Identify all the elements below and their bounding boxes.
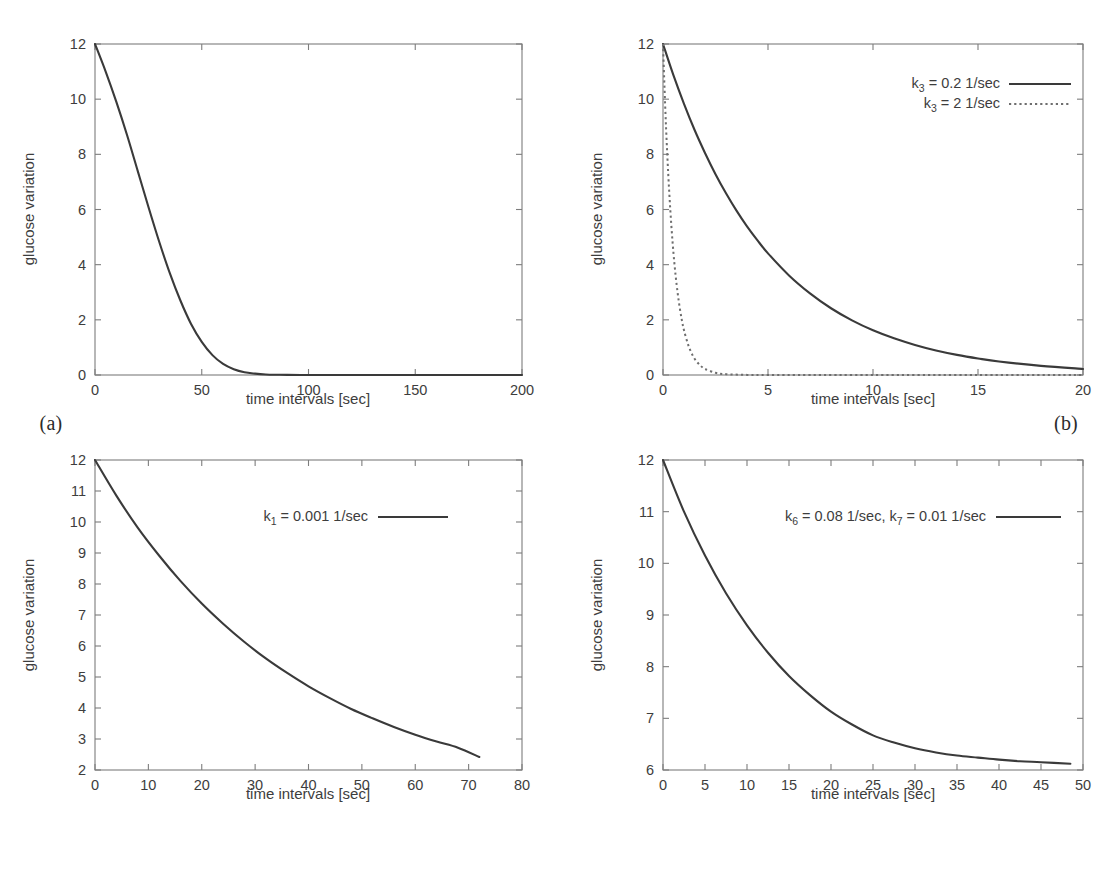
panel-c-xtick-20: 20 <box>194 777 210 793</box>
panel-a-xtick-200: 200 <box>510 382 534 398</box>
panel-c-legend: k1 = 0.001 1/sec <box>263 508 448 527</box>
panel-b-ytick-8: 8 <box>646 146 654 162</box>
panel-d-ytick-6: 6 <box>646 762 654 778</box>
panel-c-xtick-80: 80 <box>514 777 530 793</box>
panel-b-ylabel: glucose variation <box>588 153 605 266</box>
panel-a-ytick-10: 10 <box>70 91 86 107</box>
panel-c-ylabel: glucose variation <box>20 559 37 672</box>
panel-d-xlabel: time intervals [sec] <box>811 785 935 802</box>
legend-c-rest: = 0.001 1/sec <box>277 508 369 524</box>
panel-c-series-0 <box>95 460 479 757</box>
panel-a-ytick-8: 8 <box>78 146 86 162</box>
panel-d-svg: 051015202530354045506789101112 k6 = 0.08… <box>559 446 1117 856</box>
panel-c-frame <box>95 460 522 770</box>
panel-c-ytick-4: 4 <box>78 700 86 716</box>
panel-d-ytick-12: 12 <box>638 452 654 468</box>
panel-b-ytick-4: 4 <box>646 257 654 273</box>
panel-b-ytick-10: 10 <box>638 91 654 107</box>
panel-c-xtick-10: 10 <box>140 777 156 793</box>
panel-d-xtick-35: 35 <box>949 777 965 793</box>
panel-d-ytick-8: 8 <box>646 659 654 675</box>
panel-d-plot: 051015202530354045506789101112 k6 = 0.08… <box>559 446 1117 892</box>
panel-a-xtick-0: 0 <box>91 382 99 398</box>
panel-c-ytick-6: 6 <box>78 638 86 654</box>
panel-c-ytick-9: 9 <box>78 545 86 561</box>
panel-d-series-0 <box>663 460 1070 764</box>
panel-a-ytick-6: 6 <box>78 202 86 218</box>
legend-entry-0-text: k3 = 0.2 1/sec <box>912 75 1000 94</box>
panel-d: 051015202530354045506789101112 k6 = 0.08… <box>559 446 1117 892</box>
panel-c-ytick-8: 8 <box>78 576 86 592</box>
panel-c: 0102030405060708023456789101112 k1 = 0.0… <box>0 446 558 892</box>
panel-c-xtick-70: 70 <box>461 777 477 793</box>
panel-b-xtick-0: 0 <box>659 382 667 398</box>
legend-d-rest: = 0.01 1/sec <box>903 508 986 524</box>
panel-d-ytick-10: 10 <box>638 555 654 571</box>
panel-d-ytick-9: 9 <box>646 607 654 623</box>
panel-d-xtick-15: 15 <box>781 777 797 793</box>
legend-c-entry-text: k1 = 0.001 1/sec <box>263 508 368 527</box>
panel-b-ytick-0: 0 <box>646 367 654 383</box>
legend-entry-1-text: k3 = 2 1/sec <box>924 95 1000 114</box>
panel-d-ytick-7: 7 <box>646 710 654 726</box>
panel-b-frame <box>663 44 1083 375</box>
panel-c-ytick-5: 5 <box>78 669 86 685</box>
panel-b-ytick-12: 12 <box>638 36 654 52</box>
legend-0-rest: = 0.2 1/sec <box>925 75 1000 91</box>
panel-d-frame <box>663 460 1083 770</box>
panel-a-plot: 050100150200024681012 time intervals [se… <box>0 0 558 446</box>
panel-d-legend: k6 = 0.08 1/sec, k7 = 0.01 1/sec <box>785 508 1061 527</box>
panel-c-plot: 0102030405060708023456789101112 k1 = 0.0… <box>0 446 558 892</box>
panel-a-ytick-2: 2 <box>78 312 86 328</box>
panel-a-ytick-4: 4 <box>78 257 86 273</box>
panel-b-curves <box>663 44 1083 375</box>
panel-a-xtick-50: 50 <box>194 382 210 398</box>
panel-c-ytick-10: 10 <box>70 514 86 530</box>
panel-a-ticks: 050100150200024681012 <box>70 36 534 398</box>
legend-d-mid: = 0.08 1/sec, k <box>798 508 897 524</box>
panel-d-xtick-5: 5 <box>701 777 709 793</box>
panel-a-frame <box>95 44 522 375</box>
panel-b-plot: 05101520024681012 k3 = 0.2 1/sec k3 = 2 … <box>559 0 1117 446</box>
panel-b-xtick-15: 15 <box>970 382 986 398</box>
legend-1-rest: = 2 1/sec <box>937 95 1000 111</box>
panel-c-ytick-7: 7 <box>78 607 86 623</box>
panel-d-xtick-50: 50 <box>1075 777 1091 793</box>
panel-a: 050100150200024681012 time intervals [se… <box>0 0 558 446</box>
panel-a-curves <box>95 44 522 375</box>
panel-a-ytick-0: 0 <box>78 367 86 383</box>
panel-b-xtick-5: 5 <box>764 382 772 398</box>
panel-c-xtick-60: 60 <box>407 777 423 793</box>
panel-d-xtick-0: 0 <box>659 777 667 793</box>
panel-b-ytick-6: 6 <box>646 202 654 218</box>
figure-glucose-variation: 050100150200024681012 time intervals [se… <box>0 0 1117 892</box>
panel-c-ytick-3: 3 <box>78 731 86 747</box>
panel-b-caption: (b) <box>787 412 1117 435</box>
panel-c-svg: 0102030405060708023456789101112 k1 = 0.0… <box>0 446 558 856</box>
panel-a-caption: (a) <box>0 412 330 435</box>
panel-b-xlabel: time intervals [sec] <box>811 390 935 407</box>
panel-c-ytick-2: 2 <box>78 762 86 778</box>
panel-a-xlabel: time intervals [sec] <box>246 390 370 407</box>
panel-c-ytick-12: 12 <box>70 452 86 468</box>
panel-c-xtick-0: 0 <box>91 777 99 793</box>
legend-d-entry-text: k6 = 0.08 1/sec, k7 = 0.01 1/sec <box>785 508 986 527</box>
panel-a-ytick-12: 12 <box>70 36 86 52</box>
panel-b-series-1 <box>663 44 1083 375</box>
panel-b-xtick-20: 20 <box>1075 382 1091 398</box>
panel-c-ticks: 0102030405060708023456789101112 <box>70 452 530 793</box>
panel-c-ytick-11: 11 <box>71 483 86 499</box>
panel-b-legend: k3 = 0.2 1/sec k3 = 2 1/sec <box>912 75 1071 114</box>
panel-b-ytick-2: 2 <box>646 312 654 328</box>
panel-d-ticks: 051015202530354045506789101112 <box>638 452 1091 793</box>
panel-a-svg: 050100150200024681012 time intervals [se… <box>0 0 558 410</box>
panel-d-curves <box>663 460 1070 764</box>
panel-d-xtick-10: 10 <box>739 777 755 793</box>
panel-a-ylabel: glucose variation <box>20 153 37 266</box>
panel-a-xtick-150: 150 <box>403 382 427 398</box>
panel-d-ytick-11: 11 <box>639 504 654 520</box>
panel-d-xtick-40: 40 <box>991 777 1007 793</box>
panel-a-series-0 <box>95 44 522 375</box>
panel-b: 05101520024681012 k3 = 0.2 1/sec k3 = 2 … <box>559 0 1117 446</box>
panel-d-ylabel: glucose variation <box>588 559 605 672</box>
